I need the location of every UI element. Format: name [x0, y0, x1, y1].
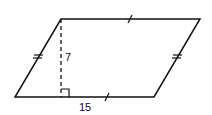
double-tick-right-side — [172, 55, 182, 58]
right-angle-marker — [61, 89, 69, 97]
double-tick-left-side — [33, 55, 43, 58]
height-label: 7 — [65, 51, 71, 63]
parallelogram-diagram: 7 15 — [0, 0, 212, 115]
base-label: 15 — [79, 101, 91, 113]
